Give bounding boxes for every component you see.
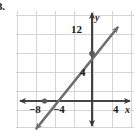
x-tick-label-4: 4 bbox=[113, 104, 119, 115]
gridline-horizontal bbox=[16, 15, 134, 16]
x-axis-name-label: x bbox=[125, 105, 130, 115]
gridline-horizontal bbox=[16, 127, 134, 128]
y-axis-name-label: y bbox=[95, 13, 99, 23]
exercise-number-label: 3. bbox=[0, 1, 5, 12]
gridline-horizontal bbox=[16, 91, 134, 92]
gridline-horizontal bbox=[16, 72, 134, 73]
gridline-horizontal bbox=[16, 53, 134, 54]
graph-figure: 3. bbox=[0, 0, 137, 137]
x-tick-label-minus-4: −4 bbox=[53, 104, 65, 115]
x-tick-label-minus-8: −8 bbox=[29, 104, 41, 115]
y-tick-label-12: 12 bbox=[71, 24, 82, 35]
y-tick-label-4: 4 bbox=[80, 67, 86, 78]
